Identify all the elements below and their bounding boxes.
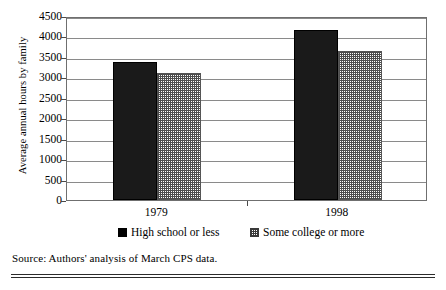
y-axis-tick-mark: [61, 37, 66, 38]
legend-item-1: Some college or more: [250, 226, 364, 238]
y-axis-tick-label: 3000: [2, 73, 62, 85]
legend-item-0: High school or less: [118, 226, 219, 238]
bar-1979-series-0: [113, 62, 157, 200]
y-axis-tick-mark: [61, 119, 66, 120]
y-axis-tick-label: 0: [2, 195, 62, 207]
y-axis-tick-label: 4500: [2, 11, 62, 23]
y-axis-tick-mark: [61, 181, 66, 182]
y-axis-tick-label: 1500: [2, 134, 62, 146]
y-axis-tick-mark: [61, 17, 66, 18]
legend-swatch-icon-0: [118, 228, 127, 237]
y-axis-tick-label: 2500: [2, 93, 62, 105]
y-axis-tick-label: 500: [2, 175, 62, 187]
bottom-rule-lower: [11, 277, 435, 278]
y-axis-tick-mark: [61, 99, 66, 100]
source-note: Source: Authors' analysis of March CPS d…: [12, 252, 217, 264]
plot-area: [66, 17, 427, 201]
plot-inner: [67, 18, 426, 200]
y-axis-tick-mark: [61, 201, 66, 202]
bar-1998-series-0: [294, 30, 338, 201]
bottom-rule-upper: [11, 274, 435, 275]
figure-container: Average annual hours by family 050010001…: [0, 0, 446, 290]
bar-1998-series-1: [338, 51, 382, 200]
y-axis-tick-mark: [61, 140, 66, 141]
legend-label-1: Some college or more: [263, 226, 364, 238]
y-axis-tick-mark: [61, 58, 66, 59]
y-axis-tick-label: 2000: [2, 113, 62, 125]
legend-label-0: High school or less: [131, 226, 219, 238]
x-axis-tick-label-1998: 1998: [292, 206, 382, 218]
gridline: [67, 18, 426, 19]
y-axis-tick-mark: [61, 160, 66, 161]
x-axis-tick-label-1979: 1979: [111, 206, 201, 218]
chart-legend: High school or lessSome college or more: [66, 226, 427, 242]
bar-1979-series-1: [157, 73, 201, 200]
y-axis-tick-mark: [61, 78, 66, 79]
y-axis-tick-label: 4000: [2, 32, 62, 44]
legend-swatch-icon-1: [250, 228, 259, 237]
x-axis-tick-mark: [247, 201, 248, 206]
y-axis-tick-label: 1000: [2, 154, 62, 166]
y-axis-tick-label: 3500: [2, 52, 62, 64]
gridline: [67, 38, 426, 39]
